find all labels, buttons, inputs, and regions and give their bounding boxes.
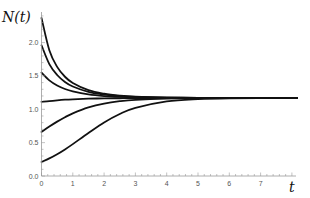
x-axis-label: t (289, 179, 295, 195)
tick-label: 3 (133, 180, 137, 187)
tick-label: 2 (102, 180, 106, 187)
tick-label: 0 (40, 180, 44, 187)
tick-label: 5 (196, 180, 200, 187)
tick-label: 1.0 (29, 106, 39, 113)
tick-label: 6 (227, 180, 231, 187)
tick-label: 7 (259, 180, 263, 187)
axes-group (42, 12, 297, 176)
tick-label: 0.0 (29, 173, 39, 180)
solution-curve (42, 98, 298, 162)
solution-curve (42, 45, 298, 98)
tick-label: 1 (71, 180, 75, 187)
y-axis-label: N(t) (1, 9, 31, 25)
tick-label: 1.5 (29, 72, 39, 79)
tick-label: 4 (165, 180, 169, 187)
ticks-group (42, 16, 292, 176)
solution-curve (42, 18, 298, 98)
tick-label: 2.0 (29, 39, 39, 46)
solution-curve (42, 98, 298, 132)
curves-group (42, 18, 298, 162)
tick-label: 0.5 (29, 139, 39, 146)
tick-labels-group: 012345670.00.51.01.52.0 (29, 39, 263, 187)
solution-curve (42, 73, 298, 98)
population-chart: 012345670.00.51.01.52.0 N(t) t (0, 0, 310, 198)
